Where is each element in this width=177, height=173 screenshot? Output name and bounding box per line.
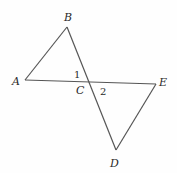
label-d: D (109, 157, 119, 170)
segment-ae (25, 80, 156, 84)
segment-bd (67, 27, 116, 150)
segment-ab (25, 27, 67, 80)
angle-1-label: 1 (74, 69, 80, 80)
label-b: B (63, 11, 72, 24)
label-e: E (158, 76, 167, 89)
angle-2-label: 2 (100, 86, 106, 97)
label-a: A (11, 75, 20, 88)
segment-ed (116, 84, 156, 150)
label-c: C (76, 84, 85, 97)
diagram-svg: B A 1 C 2 E D (0, 0, 177, 173)
geometry-diagram: B A 1 C 2 E D (0, 0, 177, 173)
